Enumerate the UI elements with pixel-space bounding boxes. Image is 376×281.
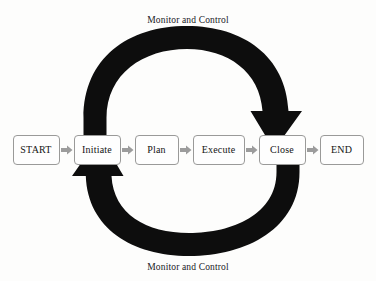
- arrow-right-icon: [246, 145, 258, 155]
- arrow-right-icon: [180, 145, 192, 155]
- arrow-right-icon: [61, 145, 73, 155]
- connector-initiate-to-plan: [121, 135, 135, 165]
- top-feedback-arc: [84, 26, 303, 150]
- stage-box-execute[interactable]: Execute: [193, 135, 245, 165]
- arrow-right-icon: [307, 145, 319, 155]
- stage-box-plan[interactable]: Plan: [135, 135, 179, 165]
- connector-execute-to-close: [245, 135, 259, 165]
- connector-start-to-initiate: [60, 135, 74, 165]
- connector-close-to-end: [306, 135, 320, 165]
- connector-plan-to-execute: [179, 135, 193, 165]
- stage-row: START Initiate Plan Execute: [0, 134, 376, 165]
- stage-label-execute: Execute: [202, 144, 236, 155]
- stage-box-end[interactable]: END: [320, 135, 364, 165]
- stage-box-close[interactable]: Close: [259, 135, 306, 165]
- stage-label-plan: Plan: [147, 144, 166, 155]
- stage-label-close: Close: [270, 144, 294, 155]
- stage-box-initiate[interactable]: Initiate: [74, 135, 121, 165]
- caption-monitor-and-control-bottom: Monitor and Control: [0, 262, 376, 272]
- stage-label-initiate: Initiate: [82, 144, 112, 155]
- stage-label-start: START: [20, 144, 51, 155]
- arrow-right-icon: [122, 145, 134, 155]
- stage-label-end: END: [331, 144, 352, 155]
- diagram-canvas: Monitor and Control START Initiate: [0, 0, 376, 281]
- stage-box-start[interactable]: START: [13, 135, 60, 165]
